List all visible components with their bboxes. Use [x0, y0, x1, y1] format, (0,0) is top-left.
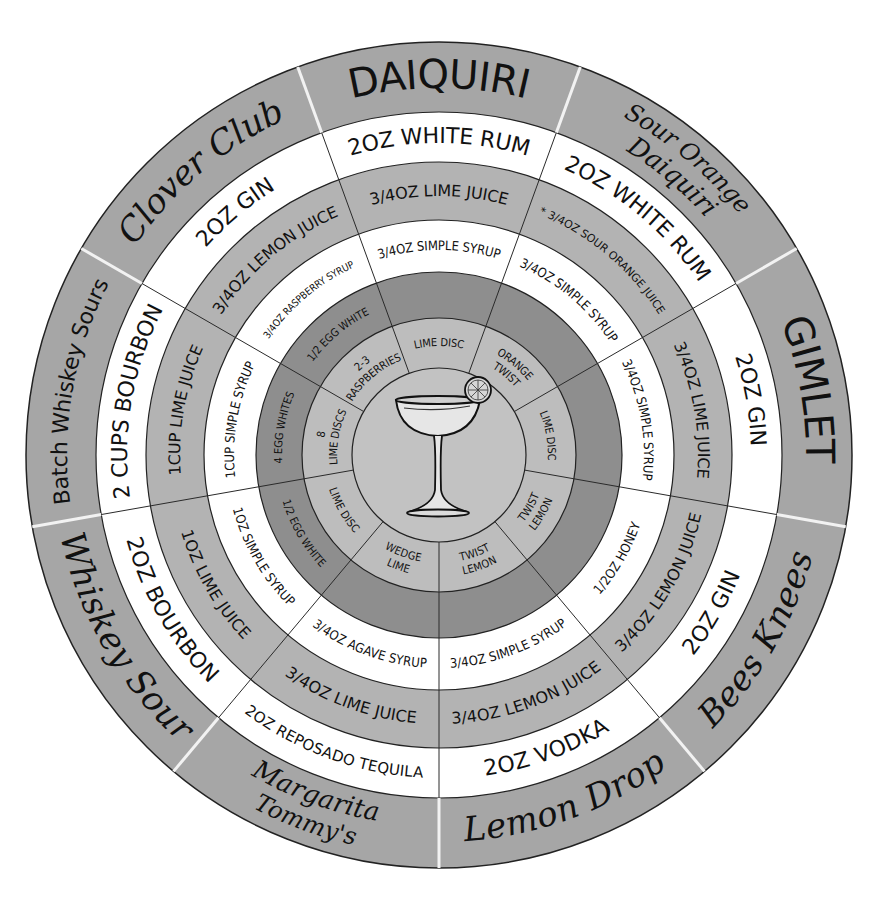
cocktail-wheel: DAIQUIRI2OZ WHITE RUM3/4OZ LIME JUICE3/4…	[0, 0, 890, 897]
cocktail-wheel-svg: DAIQUIRI2OZ WHITE RUM3/4OZ LIME JUICE3/4…	[0, 0, 890, 897]
